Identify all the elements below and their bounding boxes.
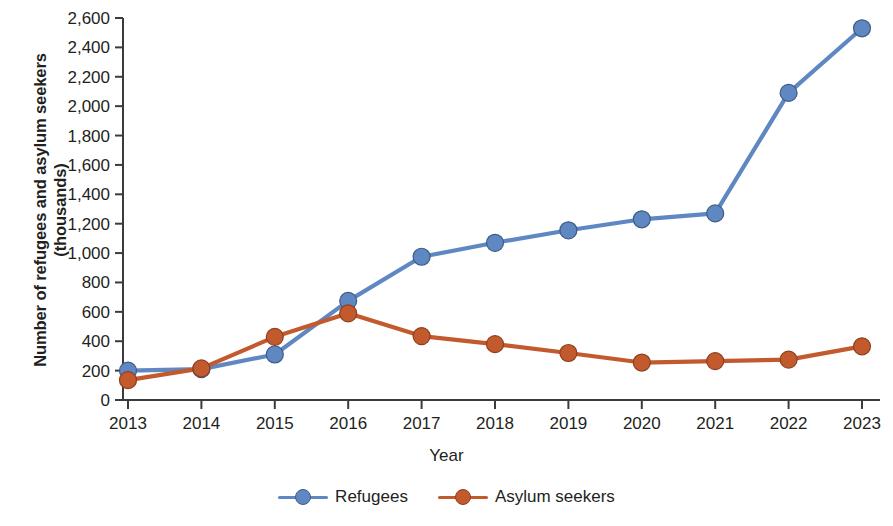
legend-label-asylum-seekers: Asylum seekers bbox=[495, 487, 615, 507]
x-tick-label: 2023 bbox=[843, 414, 881, 433]
data-point bbox=[413, 328, 430, 345]
y-tick-label: 1,600 bbox=[67, 156, 110, 175]
x-tick-label-group: 2013201420152016201720182019202020212022… bbox=[109, 414, 881, 433]
line-chart: Number of refugees and asylum seekers (t… bbox=[0, 0, 893, 526]
legend-marker-refugees bbox=[278, 488, 328, 506]
data-point bbox=[266, 346, 283, 363]
x-tick-label: 2022 bbox=[770, 414, 808, 433]
x-axis-title: Year bbox=[0, 446, 893, 466]
data-point bbox=[560, 344, 577, 361]
x-tick-label: 2015 bbox=[256, 414, 294, 433]
x-tick-label: 2013 bbox=[109, 414, 147, 433]
legend-label-refugees: Refugees bbox=[335, 487, 408, 507]
x-tick-label: 2020 bbox=[623, 414, 661, 433]
y-tick-label: 2,400 bbox=[67, 38, 110, 57]
data-point bbox=[707, 353, 724, 370]
x-tick-label: 2016 bbox=[329, 414, 367, 433]
y-tick-label: 600 bbox=[82, 303, 110, 322]
y-tick-label: 200 bbox=[82, 362, 110, 381]
plot-area: 02004006008001,0001,2001,4001,6001,8002,… bbox=[0, 0, 893, 480]
x-tick-label: 2021 bbox=[696, 414, 734, 433]
data-point bbox=[266, 328, 283, 345]
data-point bbox=[413, 248, 430, 265]
legend-marker-asylum-seekers bbox=[438, 488, 488, 506]
data-point bbox=[633, 211, 650, 228]
data-point bbox=[780, 84, 797, 101]
legend-item-asylum-seekers: Asylum seekers bbox=[438, 487, 615, 507]
x-tick-label: 2014 bbox=[182, 414, 220, 433]
data-point-group bbox=[120, 20, 871, 389]
y-tick-mark-group bbox=[115, 18, 123, 400]
data-point bbox=[854, 20, 871, 37]
y-tick-label: 400 bbox=[82, 332, 110, 351]
data-point bbox=[193, 360, 210, 377]
data-point bbox=[854, 338, 871, 355]
series-line-refugees bbox=[128, 28, 862, 370]
x-tick-label: 2018 bbox=[476, 414, 514, 433]
y-tick-label: 1,000 bbox=[67, 244, 110, 263]
y-tick-label: 2,600 bbox=[67, 9, 110, 28]
data-point bbox=[487, 336, 504, 353]
y-tick-label-group: 02004006008001,0001,2001,4001,6001,8002,… bbox=[67, 9, 110, 410]
y-tick-label: 2,200 bbox=[67, 68, 110, 87]
legend-item-refugees: Refugees bbox=[278, 487, 408, 507]
chart-legend: Refugees Asylum seekers bbox=[0, 487, 893, 507]
data-point bbox=[487, 234, 504, 251]
y-tick-label: 2,000 bbox=[67, 97, 110, 116]
y-tick-label: 1,400 bbox=[67, 185, 110, 204]
y-tick-label: 800 bbox=[82, 273, 110, 292]
data-point bbox=[560, 222, 577, 239]
y-tick-label: 1,200 bbox=[67, 215, 110, 234]
x-tick-label: 2017 bbox=[403, 414, 441, 433]
data-point bbox=[340, 305, 357, 322]
y-tick-label: 0 bbox=[101, 391, 110, 410]
data-point bbox=[633, 354, 650, 371]
y-tick-label: 1,800 bbox=[67, 127, 110, 146]
x-tick-label: 2019 bbox=[549, 414, 587, 433]
x-tick-mark-group bbox=[128, 400, 862, 409]
data-point bbox=[780, 351, 797, 368]
data-point bbox=[120, 372, 137, 389]
data-series-group bbox=[128, 28, 862, 380]
data-point bbox=[707, 205, 724, 222]
